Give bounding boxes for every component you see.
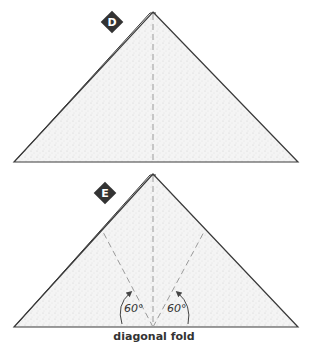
step-e: 60° 60° E diagonal fold — [14, 174, 298, 342]
badge-d-label: D — [107, 16, 116, 29]
triangle-e — [14, 174, 298, 327]
badge-e: E — [94, 182, 117, 205]
left-angle-label: 60° — [124, 302, 144, 315]
step-d: D — [14, 11, 298, 162]
right-angle-label: 60° — [167, 302, 187, 315]
fold-diagram: D 60° 60° E diagonal fold — [0, 0, 309, 342]
triangle-d — [14, 12, 298, 162]
badge-d: D — [101, 11, 124, 34]
caption: diagonal fold — [113, 330, 194, 342]
badge-e-label: E — [101, 187, 109, 200]
